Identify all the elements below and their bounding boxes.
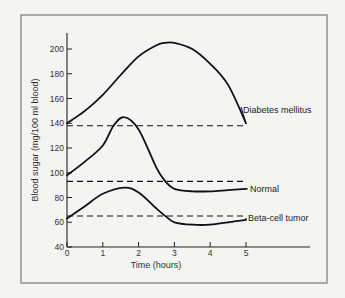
y-tick-label: 60 [55,217,65,227]
x-tick-label: 5 [244,248,249,258]
series-beta-cell-tumor [67,188,246,225]
y-ticks: 406080100120140160180200 [50,44,72,252]
x-ticks: 012345 [65,242,249,258]
y-tick-label: 180 [50,69,64,79]
y-tick-label: 120 [50,143,64,153]
y-tick-label: 140 [50,118,64,128]
x-tick-label: 4 [208,248,213,258]
y-tick-label: 200 [50,44,64,54]
chart-figure: 406080100120140160180200 012345 Time (ho… [0,0,345,298]
y-tick-label: 100 [50,168,64,178]
y-tick-label: 160 [50,94,64,104]
y-tick-label: 80 [55,193,65,203]
x-tick-label: 0 [65,248,70,258]
series-group [67,42,248,225]
y-axis-title: Blood sugar (mg/100 ml blood) [30,78,40,201]
x-tick-label: 3 [172,248,177,258]
x-axis-title: Time (hours) [131,260,182,270]
label-beta-cell-tumor: Beta-cell tumor [248,213,309,223]
label-diabetes-mellitus: Diabetes mellitus [243,105,312,115]
series-normal [67,117,246,192]
x-tick-label: 1 [100,248,105,258]
y-tick-label: 40 [55,242,65,252]
series-diabetes-mellitus [67,42,246,123]
x-tick-label: 2 [136,248,141,258]
label-normal: Normal [250,184,279,194]
